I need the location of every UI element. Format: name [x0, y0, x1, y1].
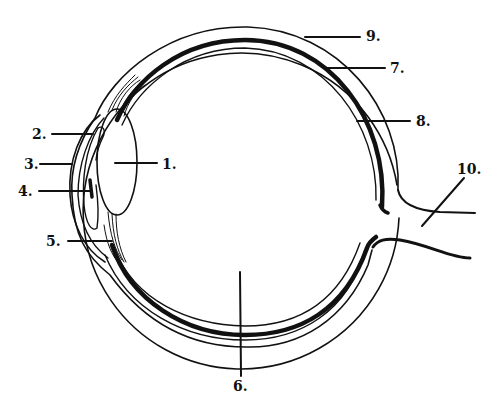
label-5: 5.	[46, 234, 61, 248]
label-6: 6.	[233, 379, 248, 393]
sclera	[72, 27, 398, 347]
retina	[122, 48, 376, 200]
eye-drawing	[0, 0, 495, 415]
eye-diagram: 1. 2. 3. 4. 5. 6. 7. 8. 9. 10.	[0, 0, 495, 415]
label-8: 8.	[416, 114, 431, 128]
optic-nerve-bottom	[373, 239, 470, 258]
label-9: 9.	[366, 29, 381, 43]
choroid	[117, 40, 382, 207]
leader-6	[240, 272, 241, 376]
label-10: 10.	[457, 162, 481, 176]
label-4: 4.	[18, 184, 33, 198]
label-3: 3.	[24, 157, 39, 171]
label-7: 7.	[390, 61, 405, 75]
label-1: 1.	[162, 157, 177, 171]
iris	[90, 180, 92, 197]
leader-10	[422, 178, 464, 226]
label-2: 2.	[32, 127, 47, 141]
